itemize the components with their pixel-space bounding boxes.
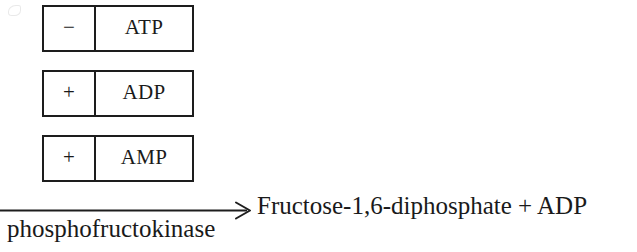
effector-sign-minus: − <box>44 7 96 50</box>
enzyme-label: phosphofructokinase <box>7 215 215 244</box>
effector-box-adp: + ADP <box>42 70 194 117</box>
effector-box-atp: − ATP <box>42 5 194 52</box>
effector-molecule-amp: AMP <box>96 137 192 180</box>
effector-box-amp: + AMP <box>42 135 194 182</box>
effector-sign-plus-adp: + <box>44 72 96 115</box>
effector-molecule-adp: ADP <box>96 72 192 115</box>
effector-molecule-atp: ATP <box>96 7 192 50</box>
scan-artifact-speck <box>8 5 21 16</box>
reaction-products: Fructose-1,6-diphosphate + ADP <box>257 192 587 221</box>
effector-sign-plus-amp: + <box>44 137 96 180</box>
